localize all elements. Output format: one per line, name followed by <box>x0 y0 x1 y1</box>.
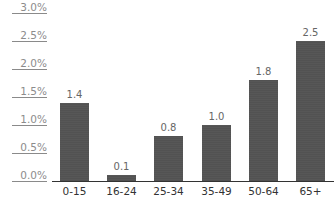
y-tick-label: 0.5% <box>20 141 47 153</box>
y-tick-label: 2.5% <box>20 29 47 41</box>
x-tick-label: 35-49 <box>195 185 239 197</box>
y-tick-label: 1.5% <box>20 85 47 97</box>
x-tick-label: 0-15 <box>53 185 97 197</box>
y-tick-line <box>12 181 47 182</box>
bar-16-24 <box>107 175 136 181</box>
x-axis-line <box>52 181 334 182</box>
x-tick-label: 25-34 <box>147 185 191 197</box>
bar-chart: 0.0%0.5%1.0%1.5%2.0%2.5%3.0%1.40-150.116… <box>0 0 336 202</box>
value-label: 1.0 <box>197 111 237 123</box>
x-tick-label: 65+ <box>289 185 333 197</box>
y-tick-line <box>12 153 47 154</box>
y-tick-line <box>12 97 47 98</box>
bar-0-15 <box>60 103 89 181</box>
bar-25-34 <box>154 136 183 181</box>
value-label: 1.4 <box>55 89 95 101</box>
bar-35-49 <box>202 125 231 181</box>
value-label: 0.8 <box>149 122 189 134</box>
value-label: 0.1 <box>102 161 142 173</box>
y-tick-line <box>12 69 47 70</box>
y-tick-label: 0.0% <box>20 169 47 181</box>
x-tick-label: 16-24 <box>100 185 144 197</box>
bar-65+ <box>296 41 325 181</box>
x-tick-label: 50-64 <box>242 185 286 197</box>
y-tick-line <box>12 41 47 42</box>
bar-50-64 <box>249 80 278 181</box>
y-tick-label: 3.0% <box>20 1 47 13</box>
y-tick-line <box>12 13 47 14</box>
value-label: 2.5 <box>291 27 331 39</box>
y-tick-label: 1.0% <box>20 113 47 125</box>
y-tick-label: 2.0% <box>20 57 47 69</box>
value-label: 1.8 <box>244 66 284 78</box>
y-tick-line <box>12 125 47 126</box>
